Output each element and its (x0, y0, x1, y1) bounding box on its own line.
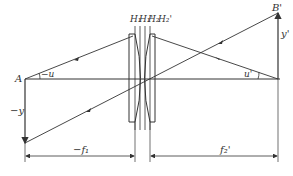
optics-diagram: A B' −y y' −u u' H₁ H₁' H₂ H₂' −f₁ f₂' (0, 0, 293, 176)
label-image-point: B' (271, 2, 282, 13)
label-object-angle: −u (41, 69, 55, 79)
label-back-focal-length: f₂' (219, 144, 230, 155)
angle-arc-u (39, 73, 40, 79)
label-image-angle: u' (244, 69, 252, 79)
label-object-height: −y (10, 105, 24, 116)
label-image-height: y' (280, 28, 289, 39)
label-object-point: A (14, 73, 22, 84)
ray-lower (25, 13, 278, 143)
ray-direction-arrow (218, 40, 223, 44)
label-front-focal-length: −f₁ (73, 144, 89, 155)
ray-direction-arrow (86, 108, 91, 112)
label-h2-prime: H₂' (157, 14, 172, 24)
angle-arc-u-prime (258, 72, 259, 79)
